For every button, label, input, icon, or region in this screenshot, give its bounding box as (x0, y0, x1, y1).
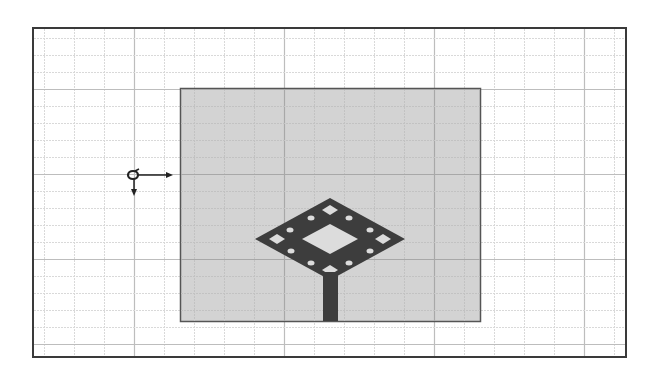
patch-hole (288, 249, 295, 254)
patch-hole (346, 261, 353, 266)
patch-hole (346, 216, 353, 221)
patch-hole (367, 249, 374, 254)
y-arrowhead-icon (131, 189, 137, 196)
patch-hole (308, 261, 315, 266)
origin-z-tick (135, 169, 139, 171)
microstrip-feed-line[interactable] (323, 272, 338, 321)
patch-hole (287, 228, 294, 233)
layout-canvas[interactable] (0, 0, 657, 376)
patch-hole (367, 228, 374, 233)
patch-hole (308, 216, 315, 221)
x-arrowhead-icon (166, 172, 173, 178)
